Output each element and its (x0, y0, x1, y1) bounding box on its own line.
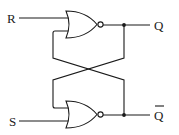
bottom-nor-gate (66, 101, 103, 128)
inverter-bubble-icon (98, 112, 103, 117)
sr-latch-diagram: R S Q Q (0, 0, 179, 135)
feedback-wire-top-in (53, 31, 124, 115)
q-output-label: Q (154, 18, 164, 33)
junction-dot-q (122, 23, 126, 27)
q-bar-output-label: Q (154, 108, 164, 123)
feedback-wire-bottom-in (53, 25, 124, 108)
top-nor-gate (66, 11, 103, 38)
junction-dot-q-bar (122, 113, 126, 117)
set-input-label: S (9, 114, 16, 129)
reset-input-label: R (7, 11, 16, 26)
inverter-bubble-icon (98, 22, 103, 27)
